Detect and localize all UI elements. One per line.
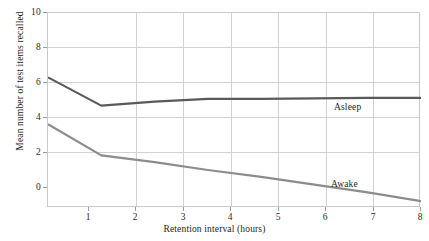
line-series-awake (48, 124, 421, 201)
x-axis-title: Retention interval (hours) (0, 224, 429, 234)
x-tick-mark (88, 207, 89, 211)
series-label-awake: Awake (331, 179, 358, 189)
x-tick-label: 8 (418, 212, 423, 222)
y-tick-label: 2 (23, 147, 41, 157)
plot-area: Asleep Awake (47, 12, 420, 207)
y-tick-label: 10 (23, 7, 41, 17)
y-tick-label: 0 (23, 182, 41, 192)
x-tick-label: 7 (371, 212, 376, 222)
x-tick-mark (373, 207, 374, 211)
y-tick-label: 4 (23, 112, 41, 122)
x-tick-label: 5 (276, 212, 281, 222)
x-tick-mark (135, 207, 136, 211)
series-label-asleep: Asleep (334, 102, 361, 112)
x-tick-label: 3 (181, 212, 186, 222)
x-tick-mark (420, 207, 421, 211)
x-tick-mark (230, 207, 231, 211)
x-tick-label: 6 (323, 212, 328, 222)
y-tick-label: 8 (23, 42, 41, 52)
chart-figure: Mean number of test items recalled 10 8 … (0, 0, 429, 241)
x-tick-mark (325, 207, 326, 211)
line-series-asleep (48, 77, 421, 105)
x-tick-label: 2 (133, 212, 138, 222)
x-tick-mark (278, 207, 279, 211)
x-tick-label: 4 (228, 212, 233, 222)
y-tick-label: 6 (23, 77, 41, 87)
x-tick-mark (183, 207, 184, 211)
series-lines (48, 13, 421, 208)
x-tick-label: 1 (86, 212, 91, 222)
